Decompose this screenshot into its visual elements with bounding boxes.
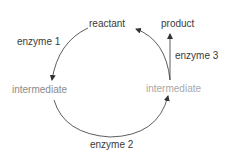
label-enzyme-3: enzyme 3 — [175, 50, 218, 62]
node-reactant: reactant — [89, 18, 125, 30]
label-enzyme-1: enzyme 1 — [17, 36, 60, 48]
node-intermediate-left: intermediate — [12, 84, 67, 96]
node-intermediate-right: intermediate — [146, 83, 201, 95]
node-product: product — [161, 18, 194, 30]
label-enzyme-2: enzyme 2 — [90, 139, 133, 151]
arrow-enzyme-2 — [54, 96, 168, 137]
arrow-regenerate-reactant — [136, 29, 170, 80]
enzyme-cycle-diagram: reactant product enzyme 1 enzyme 3 inter… — [0, 0, 232, 156]
